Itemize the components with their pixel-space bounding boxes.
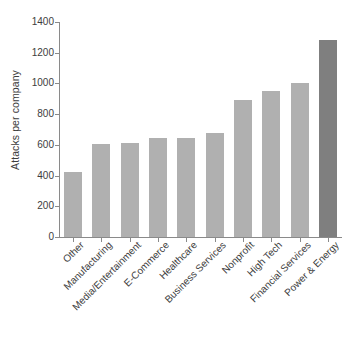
bar-power-energy [319,40,337,237]
y-axis-title: Attacks per company [4,0,26,240]
y-tick-label: 1200 [32,48,54,58]
bar-e-commerce [149,138,167,237]
y-tick-label: 400 [37,171,54,181]
y-tick-label: 0 [48,232,54,242]
bar-chart-figure: Attacks per company 02004006008001000120… [0,0,351,338]
bar-nonprofit [234,100,252,237]
x-axis-labels: OtherManufacturingMedia/EntertainmentE-C… [59,240,351,338]
y-tick-label: 1400 [32,17,54,27]
y-tick-label: 800 [37,109,54,119]
y-tick-label: 200 [37,201,54,211]
bar-media-entertainment [121,143,139,237]
bars-layer [59,22,342,238]
bar-financial-services [291,83,309,237]
plot-area: 0200400600800100012001400 [59,22,342,238]
bar-high-tech [262,91,280,237]
bar-business-services [206,133,224,237]
x-tick-label: Power & Energy [283,240,341,298]
y-tick-label: 1000 [32,78,54,88]
bar-healthcare [177,138,195,238]
y-tick-label: 600 [37,140,54,150]
x-tick-label: Other [61,240,86,265]
y-axis-title-text: Attacks per company [9,70,21,170]
bar-manufacturing [92,144,110,237]
bar-other [64,172,82,237]
